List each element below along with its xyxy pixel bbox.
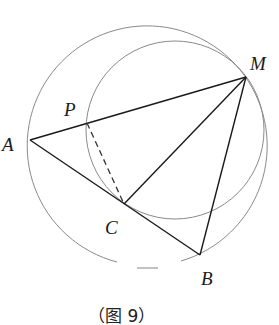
small-circle xyxy=(86,41,264,219)
segment-AM xyxy=(30,77,246,140)
figure-caption: （图 9） xyxy=(88,306,155,325)
point-label-M: M xyxy=(249,53,267,74)
segment-MC xyxy=(124,77,246,204)
segment-MB xyxy=(200,77,246,255)
point-label-P: P xyxy=(63,99,76,120)
point-label-C: C xyxy=(105,217,118,238)
point-label-B: B xyxy=(201,268,213,289)
geometry-figure: A P M C B （图 9） xyxy=(0,0,279,325)
point-label-A: A xyxy=(0,134,14,155)
